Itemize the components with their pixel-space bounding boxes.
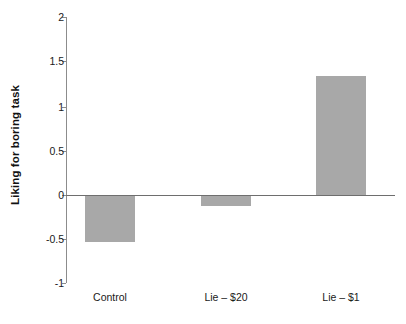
bar-chart-figure: Liking for boring task 2 1.5 1 0.5 0 -0.… <box>0 0 406 324</box>
x-tick-label-lie-1: Lie – $1 <box>311 292 371 303</box>
x-tick-label-lie-20: Lie – $20 <box>196 292 256 303</box>
y-tick-label-neg-1: -1 <box>55 278 64 289</box>
plot-area: 2 1.5 1 0.5 0 -0.5 -1 Control Lie – $20 … <box>0 0 406 324</box>
y-axis-line <box>66 17 67 283</box>
x-tick-label-control: Control <box>80 292 140 303</box>
y-tick-label-0: 0 <box>58 190 64 201</box>
bar-lie-1[interactable] <box>316 76 366 195</box>
bar-control[interactable] <box>85 196 135 242</box>
y-tick-label-neg-0-5: -0.5 <box>46 234 64 245</box>
y-tick-label-2: 2 <box>58 12 64 23</box>
bar-lie-20[interactable] <box>201 196 251 206</box>
y-tick-label-1: 1 <box>58 102 64 113</box>
y-tick-label-0-5: 0.5 <box>49 146 64 157</box>
y-tick-label-1-5: 1.5 <box>49 56 64 67</box>
